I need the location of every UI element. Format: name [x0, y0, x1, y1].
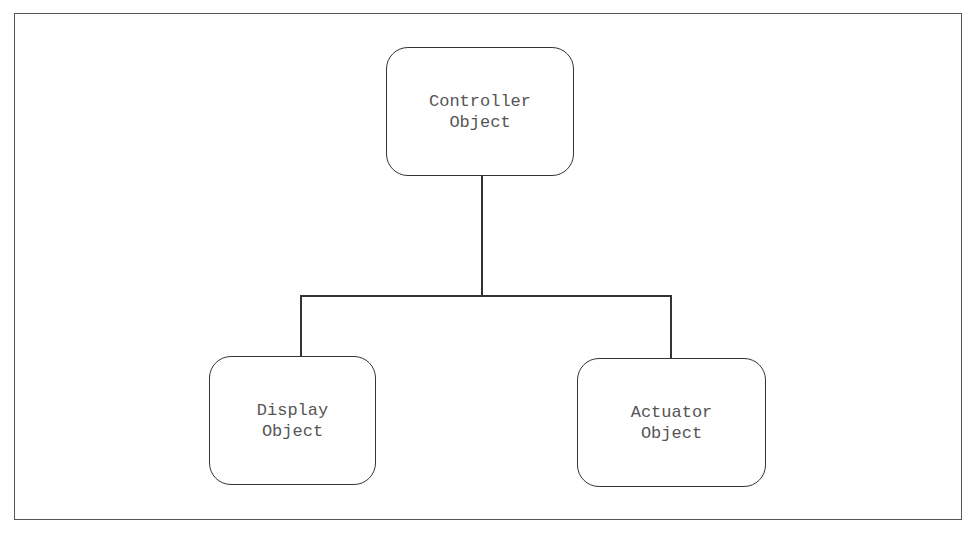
connector-trunk	[481, 175, 483, 297]
connector-to-display	[300, 295, 302, 357]
node-label-line1: Actuator	[631, 402, 713, 423]
node-label-line1: Controller	[429, 91, 531, 112]
connector-to-actuator	[670, 295, 672, 359]
node-label-line2: Object	[449, 112, 510, 133]
node-label-line2: Object	[641, 423, 702, 444]
actuator-object-node: Actuator Object	[577, 358, 766, 487]
node-label-line1: Display	[257, 400, 328, 421]
display-object-node: Display Object	[209, 356, 376, 485]
controller-object-node: Controller Object	[386, 47, 574, 176]
connector-horizontal	[300, 295, 672, 297]
node-label-line2: Object	[262, 421, 323, 442]
